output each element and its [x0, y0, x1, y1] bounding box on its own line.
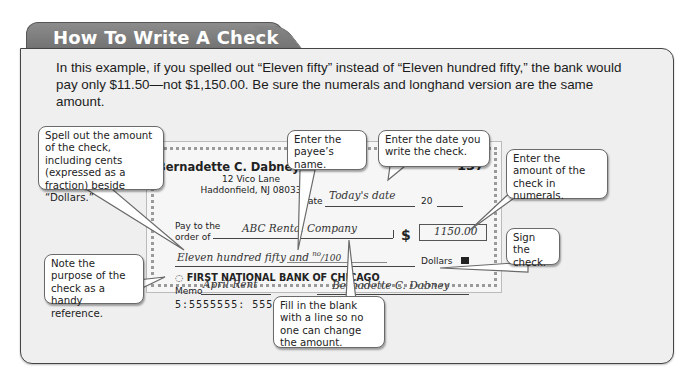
- callout-amount-numerals: Enter the amount of the check in numeral…: [506, 149, 608, 199]
- callout-memo: Note the purpose of the check as a handy…: [44, 254, 144, 304]
- callout-fill-blank: Fill in the blank with a line so no one …: [273, 296, 385, 348]
- callout-spell-amount: Spell out the amount of the check, inclu…: [38, 126, 164, 190]
- callout-sign: Sign the check.: [506, 228, 560, 265]
- callout-payee-name: Enter the payee’s name.: [287, 130, 367, 170]
- callout-date: Enter the date you write the check.: [378, 130, 490, 167]
